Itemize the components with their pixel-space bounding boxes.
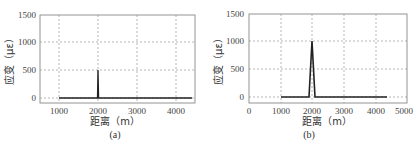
data-line-a xyxy=(59,70,192,98)
ytick-label: 500 xyxy=(231,64,245,74)
xtick-label: 3000 xyxy=(335,106,354,116)
xtick-label: 1000 xyxy=(272,106,291,116)
panel-caption: (a) xyxy=(109,129,120,141)
ytick-label: 1500 xyxy=(18,10,37,20)
xtick-label: 4000 xyxy=(167,106,186,116)
y-axis-label: 应变（με） xyxy=(212,33,224,85)
grid-b xyxy=(249,14,407,103)
chart-a: 1500 1000 500 0 1000 2000 3000 4000 距离（m… xyxy=(3,10,195,141)
ytick-label: 1000 xyxy=(226,36,245,46)
ytick-label: 1000 xyxy=(18,37,37,47)
plot-frame-a xyxy=(40,15,195,103)
y-axis-label: 应变（με） xyxy=(3,33,15,85)
ytick-label: 500 xyxy=(23,65,37,75)
ytick-label: 0 xyxy=(240,92,245,102)
plot-frame-b xyxy=(249,14,407,103)
xtick-label: 5000 xyxy=(395,106,414,116)
ytick-label: 1500 xyxy=(226,9,245,19)
panel-caption: (b) xyxy=(303,129,315,141)
grid-a xyxy=(40,15,195,103)
xtick-label: 1000 xyxy=(50,106,69,116)
x-axis-label: 距离（m） xyxy=(90,115,140,127)
xtick-label: 2000 xyxy=(89,106,108,116)
ytick-label: 0 xyxy=(32,93,37,103)
chart-b: 1500 1000 500 0 0 1000 2000 3000 4000 50… xyxy=(212,9,414,141)
xtick-label: 4000 xyxy=(367,106,386,116)
figure: 1500 1000 500 0 1000 2000 3000 4000 距离（m… xyxy=(0,0,414,147)
xtick-label: 0 xyxy=(247,106,252,116)
xtick-label: 2000 xyxy=(303,106,322,116)
x-axis-label: 距离（m） xyxy=(302,115,352,127)
xtick-label: 3000 xyxy=(128,106,147,116)
